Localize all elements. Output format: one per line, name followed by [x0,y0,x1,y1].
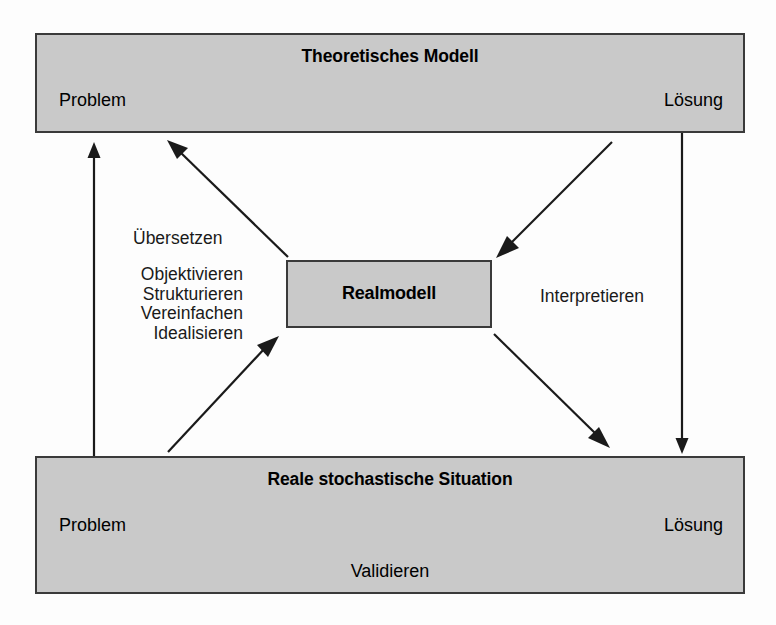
right-vertical-arrow [676,133,689,454]
theoretical-model-box: Theoretisches Modell Problem Lösung [35,33,745,133]
uebersetzen-label: Übersetzen [133,228,223,249]
real-situation-title: Reale stochastische Situation [37,469,743,490]
modelling-steps-list: Objektivieren Strukturieren Vereinfachen… [93,265,243,343]
realmodell-label: Realmodell [288,283,490,304]
theory-to-realmodell-arrow [496,142,612,258]
bottom-loesung-label: Lösung [664,515,723,536]
top-loesung-label: Lösung [664,90,723,111]
validieren-label: Validieren [37,561,743,582]
step-objektivieren: Objektivieren [93,265,243,285]
bottom-problem-label: Problem [59,515,126,536]
reality-to-realmodell-arrow [168,336,279,452]
step-idealisieren: Idealisieren [93,324,243,344]
realmodell-to-reality-arrow [494,334,610,448]
theoretical-model-title: Theoretisches Modell [37,46,743,67]
step-vereinfachen: Vereinfachen [93,304,243,324]
step-strukturieren: Strukturieren [93,285,243,305]
realmodell-box: Realmodell [286,260,492,328]
real-situation-box: Reale stochastische Situation Problem Lö… [35,456,745,594]
modelling-cycle-diagram: Theoretisches Modell Problem Lösung Real… [0,0,776,625]
top-problem-label: Problem [59,90,126,111]
interpretieren-label: Interpretieren [540,286,644,307]
